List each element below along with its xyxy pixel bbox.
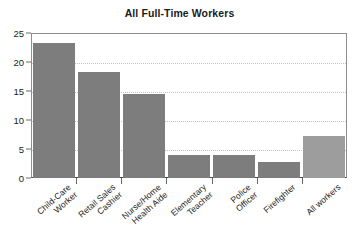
y-axis: 0510152025: [0, 33, 31, 179]
bar-slot: [76, 33, 121, 178]
x-tick-label: ElementaryTeacher: [169, 182, 215, 226]
y-tick-label-5: 5: [19, 144, 24, 155]
x-tick-label-line: All workers: [305, 182, 344, 217]
y-tick-label-10: 10: [13, 115, 24, 126]
bar[interactable]: [213, 155, 255, 178]
chart-title: All Full-Time Workers: [0, 7, 359, 19]
bar[interactable]: [168, 155, 210, 178]
x-tick-label: All workers: [305, 182, 344, 217]
bar-series: [31, 33, 347, 178]
x-axis-labels: Child-CareWorkerRetail SalesCashierNurse…: [0, 182, 359, 250]
bar-slot: [302, 33, 347, 178]
y-tick-label-20: 20: [13, 57, 24, 68]
y-tick-label-15: 15: [13, 86, 24, 97]
y-tick-label-25: 25: [13, 28, 24, 39]
x-tick-label: Child-CareWorker: [35, 182, 80, 225]
x-tick-label: Nurse/HomeHealth Aide: [120, 182, 170, 229]
bar-slot: [257, 33, 302, 178]
bar-chart: All Full-Time Workers 0510152025 Child-C…: [0, 0, 359, 250]
x-tick-label: PoliceOfficer: [227, 182, 260, 214]
bar[interactable]: [258, 162, 300, 178]
bar-slot: [166, 33, 211, 178]
x-tick-label: Firefighter: [262, 182, 298, 215]
bar[interactable]: [33, 43, 75, 178]
x-tick-label: Retail SalesCashier: [76, 182, 124, 228]
bar[interactable]: [303, 136, 345, 178]
bar-slot: [212, 33, 257, 178]
x-tick-label-line: Firefighter: [262, 182, 298, 215]
bar[interactable]: [123, 94, 165, 178]
bar-slot: [121, 33, 166, 178]
bar-slot: [31, 33, 76, 178]
bar[interactable]: [78, 72, 120, 178]
